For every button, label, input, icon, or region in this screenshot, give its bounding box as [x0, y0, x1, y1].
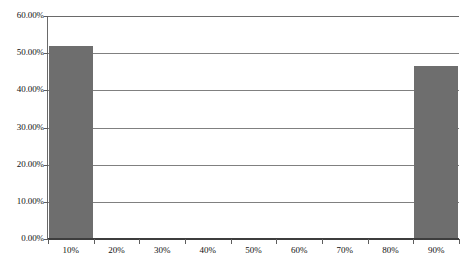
x-axis-tick-mark	[413, 239, 414, 244]
x-axis-tick-label: 10%	[48, 243, 94, 261]
x-axis-tick-label: 90%	[413, 243, 459, 261]
x-axis-line	[48, 238, 459, 240]
x-axis-label-group: 10%20%30%40%50%60%70%80%90%	[48, 243, 459, 261]
y-axis-tick-label: 20.00%	[0, 160, 44, 169]
x-axis-tick-label: 50%	[231, 243, 277, 261]
x-axis-tick-mark	[48, 239, 49, 244]
y-axis-tick-label: 60.00%	[0, 11, 44, 20]
y-axis-tick-mark	[44, 90, 48, 91]
y-axis-tick-label: 30.00%	[0, 123, 44, 132]
x-axis-tick-label: 70%	[322, 243, 368, 261]
x-axis-tick-label: 20%	[94, 243, 140, 261]
x-axis-tick-mark	[185, 239, 186, 244]
x-axis-tick-label: 30%	[139, 243, 185, 261]
gridline	[48, 53, 459, 54]
x-axis-tick-label: 40%	[185, 243, 231, 261]
x-axis-tick-mark	[276, 239, 277, 244]
x-axis-tick-mark	[368, 239, 369, 244]
plot-area	[48, 16, 459, 239]
x-axis-tick-mark	[459, 239, 460, 244]
x-axis-tick-label: 80%	[368, 243, 414, 261]
y-axis-tick-label: 0.00%	[0, 234, 44, 243]
x-axis-tick-label: 60%	[276, 243, 322, 261]
gridline	[48, 90, 459, 91]
x-axis-tick-mark	[94, 239, 95, 244]
y-axis-tick-mark	[44, 128, 48, 129]
bar-chart: 0.00%10.00%20.00%30.00%40.00%50.00%60.00…	[0, 0, 466, 263]
x-axis-tick-mark	[322, 239, 323, 244]
bar	[414, 66, 458, 239]
y-axis-tick-mark	[44, 16, 48, 17]
bar	[49, 46, 93, 239]
y-axis-tick-label: 50.00%	[0, 48, 44, 57]
y-axis-tick-mark	[44, 202, 48, 203]
y-axis-label-group: 0.00%10.00%20.00%30.00%40.00%50.00%60.00…	[0, 0, 44, 263]
gridline	[48, 16, 459, 17]
gridline	[48, 165, 459, 166]
y-axis-tick-mark	[44, 53, 48, 54]
gridline	[48, 202, 459, 203]
x-axis-tick-mark	[139, 239, 140, 244]
y-axis-tick-label: 10.00%	[0, 197, 44, 206]
x-axis-tick-mark	[231, 239, 232, 244]
y-axis-tick-mark	[44, 165, 48, 166]
y-axis-tick-label: 40.00%	[0, 85, 44, 94]
gridline	[48, 128, 459, 129]
